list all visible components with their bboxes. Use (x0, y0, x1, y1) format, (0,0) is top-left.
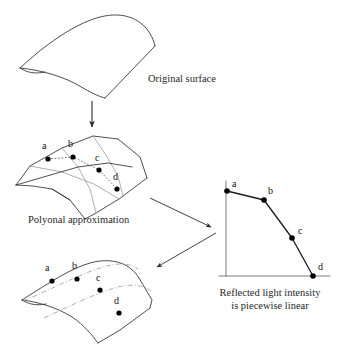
plot-point-c (289, 235, 295, 241)
smooth-label-a: a (45, 262, 49, 273)
mesh-point-a (45, 156, 50, 161)
plot-point-b (261, 197, 267, 203)
smooth-point-c (97, 287, 102, 292)
mesh-label-c: c (95, 152, 99, 163)
intensity-plot-axes (219, 181, 330, 276)
arrow-mesh-to-plot (150, 198, 211, 227)
smooth-surface-shape (22, 261, 152, 343)
mesh-point-d (114, 186, 119, 191)
smooth-label-b: b (72, 260, 77, 271)
plot-label-d: d (318, 261, 323, 272)
smooth-label-c: c (96, 272, 100, 283)
plot-label-a: a (232, 178, 236, 189)
mesh-point-c (96, 167, 101, 172)
polygonal-mesh (16, 136, 147, 219)
mesh-label-b: b (68, 138, 73, 149)
smooth-point-a (49, 278, 54, 283)
smooth-label-d: d (114, 295, 119, 306)
arrow-plot-to-smooth (157, 233, 216, 267)
caption-original-surface: Original surface (148, 72, 216, 85)
diagram-canvas: Original surface Polyonal approximation … (0, 0, 341, 347)
plot-point-a (224, 188, 230, 194)
mesh-label-a: a (42, 140, 46, 151)
mesh-label-d: d (113, 171, 118, 182)
original-surface-shape (20, 15, 155, 98)
caption-intensity-line2: is piecewise linear (206, 299, 334, 312)
plot-label-c: c (298, 225, 302, 236)
plot-label-b: b (268, 185, 273, 196)
caption-intensity-line1: Reflected light intensity (206, 286, 334, 299)
caption-polygonal-approximation: Polyonal approximation (28, 213, 129, 226)
plot-point-d (310, 273, 316, 279)
smooth-surface-dashed-lines (23, 264, 152, 318)
smooth-point-d (116, 310, 121, 315)
smooth-point-b (74, 276, 79, 281)
mesh-point-b (70, 154, 75, 159)
